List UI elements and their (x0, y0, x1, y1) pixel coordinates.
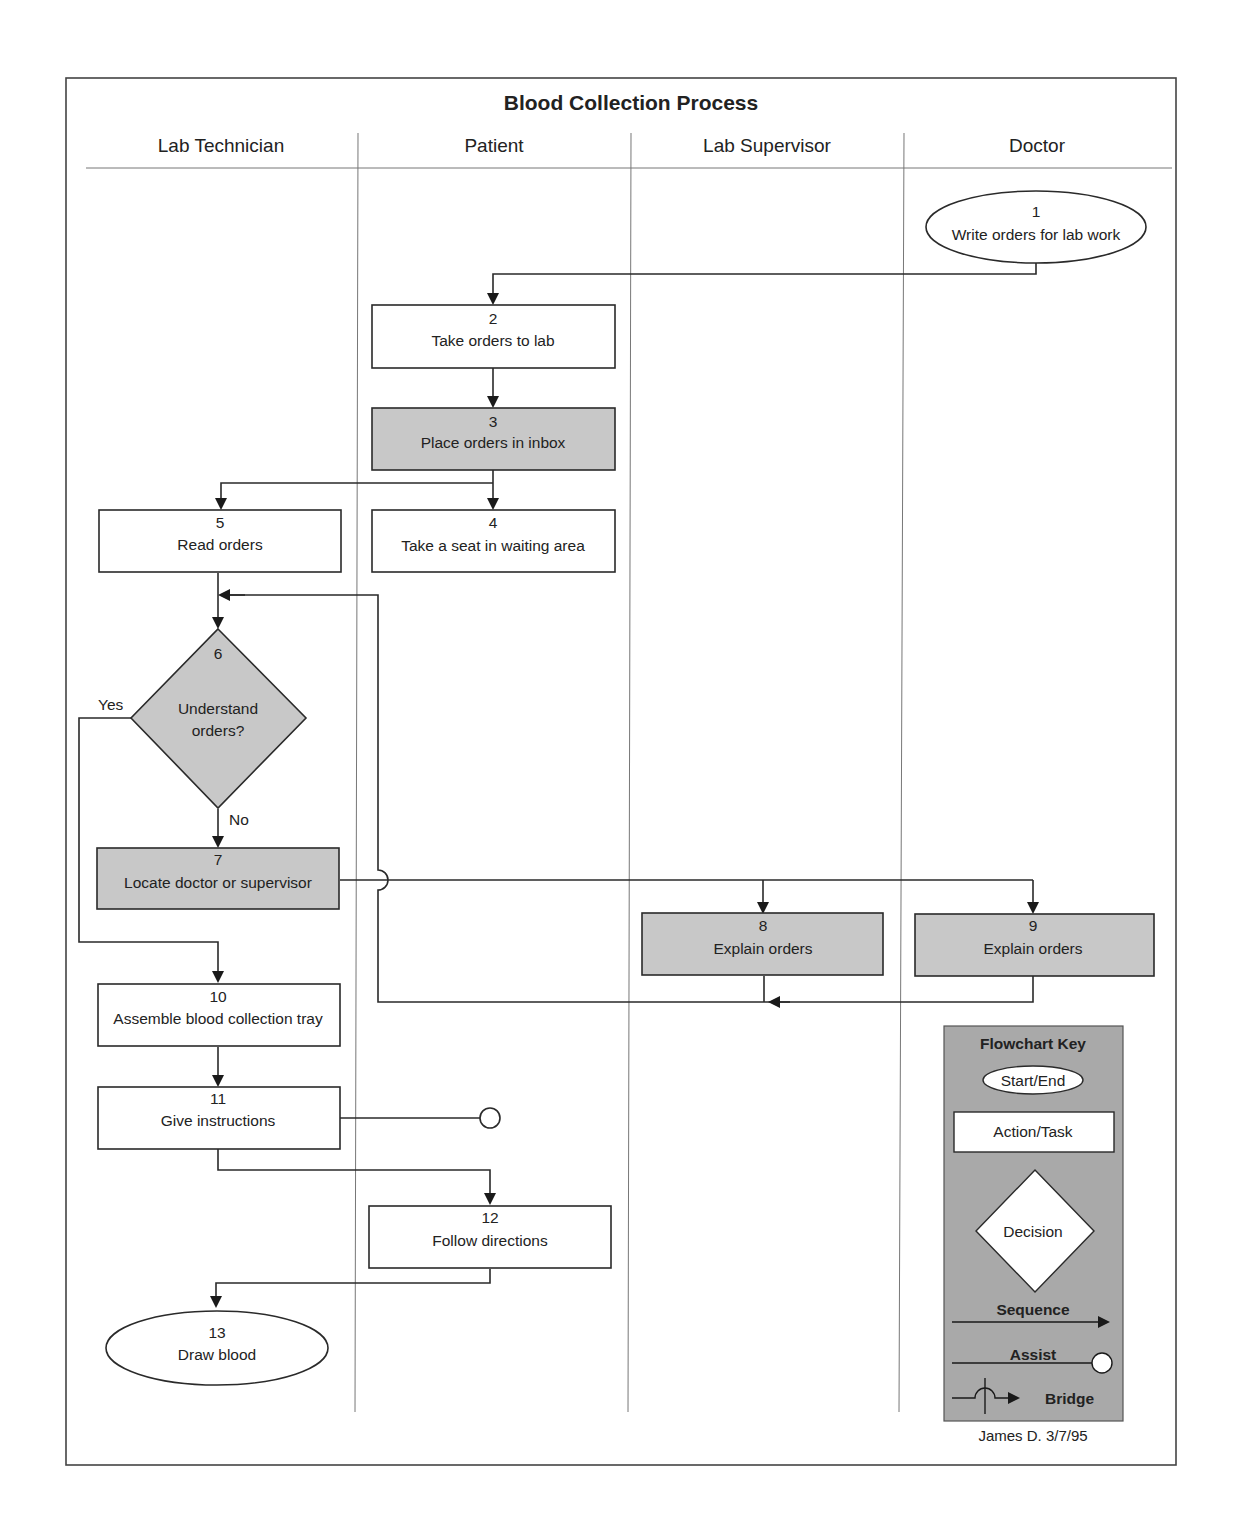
edge-11-12 (218, 1149, 490, 1203)
signature: James D. 3/7/95 (978, 1427, 1087, 1444)
key-assist-circle-icon (1092, 1353, 1112, 1373)
node-3-number: 3 (489, 413, 498, 430)
node-5[interactable]: 5 Read orders (99, 510, 341, 572)
node-4-number: 4 (489, 514, 498, 531)
node-3-label: Place orders in inbox (421, 434, 566, 451)
lane-divider-2 (628, 133, 631, 1412)
assist-circle-icon (480, 1108, 500, 1128)
flowchart-key: Flowchart Key Start/End Action/Task Deci… (944, 1026, 1123, 1421)
key-assist-label: Assist (1010, 1346, 1057, 1363)
node-6-label-line-1: Understand (178, 700, 258, 717)
node-4[interactable]: 4 Take a seat in waiting area (372, 510, 615, 572)
node-8[interactable]: 8 Explain orders (642, 913, 883, 975)
key-sequence-label: Sequence (996, 1301, 1070, 1318)
lane-divider-3 (899, 133, 904, 1412)
node-6-decision[interactable]: 6 Understand orders? (131, 629, 306, 808)
node-7-label: Locate doctor or supervisor (124, 874, 312, 891)
key-bridge-label: Bridge (1045, 1390, 1094, 1407)
branch-label-no: No (229, 811, 249, 828)
key-action-task-label: Action/Task (993, 1123, 1073, 1140)
node-1[interactable]: 1 Write orders for lab work (926, 191, 1146, 263)
node-3[interactable]: 3 Place orders in inbox (372, 408, 615, 470)
lane-header-lab-supervisor: Lab Supervisor (703, 135, 831, 156)
node-9-number: 9 (1029, 917, 1038, 934)
node-12-label: Follow directions (432, 1232, 548, 1249)
edge-1-2 (493, 262, 1036, 303)
node-7-number: 7 (214, 851, 223, 868)
node-6-number: 6 (214, 645, 223, 662)
node-10-label: Assemble blood collection tray (113, 1010, 323, 1027)
key-decision-label: Decision (1003, 1223, 1062, 1240)
node-13[interactable]: 13 Draw blood (106, 1311, 328, 1385)
node-10[interactable]: 10 Assemble blood collection tray (98, 984, 340, 1046)
node-10-number: 10 (209, 988, 227, 1005)
lane-header-doctor: Doctor (1009, 135, 1066, 156)
key-title: Flowchart Key (980, 1035, 1086, 1052)
node-1-number: 1 (1032, 203, 1041, 220)
lane-header-lab-technician: Lab Technician (158, 135, 284, 156)
node-8-number: 8 (759, 917, 768, 934)
diagram-title: Blood Collection Process (504, 91, 758, 114)
node-7[interactable]: 7 Locate doctor or supervisor (97, 848, 339, 909)
node-12[interactable]: 12 Follow directions (369, 1206, 611, 1268)
key-start-end-label: Start/End (1001, 1072, 1066, 1089)
node-11[interactable]: 11 Give instructions (98, 1087, 340, 1149)
node-12-number: 12 (481, 1209, 498, 1226)
node-1-label: Write orders for lab work (952, 226, 1121, 243)
edge-12-13 (216, 1269, 490, 1306)
node-9[interactable]: 9 Explain orders (915, 914, 1154, 976)
node-8-label: Explain orders (713, 940, 812, 957)
node-11-label: Give instructions (161, 1112, 276, 1129)
flowchart-canvas: Blood Collection Process Lab Technician … (0, 0, 1234, 1533)
node-5-label: Read orders (177, 536, 263, 553)
node-13-number: 13 (208, 1324, 225, 1341)
lane-header-patient: Patient (464, 135, 524, 156)
node-4-label: Take a seat in waiting area (401, 537, 585, 554)
node-9-label: Explain orders (983, 940, 1082, 957)
node-2[interactable]: 2 Take orders to lab (372, 305, 615, 368)
node-2-label: Take orders to lab (431, 332, 554, 349)
edge-return-to-6 (230, 595, 1033, 1002)
node-2-number: 2 (489, 310, 498, 327)
lane-divider-1 (355, 133, 358, 1412)
branch-label-yes: Yes (98, 696, 124, 713)
node-5-number: 5 (216, 514, 225, 531)
node-11-number: 11 (210, 1090, 226, 1107)
node-13-label: Draw blood (178, 1346, 256, 1363)
node-6-label-line-2: orders? (192, 722, 245, 739)
